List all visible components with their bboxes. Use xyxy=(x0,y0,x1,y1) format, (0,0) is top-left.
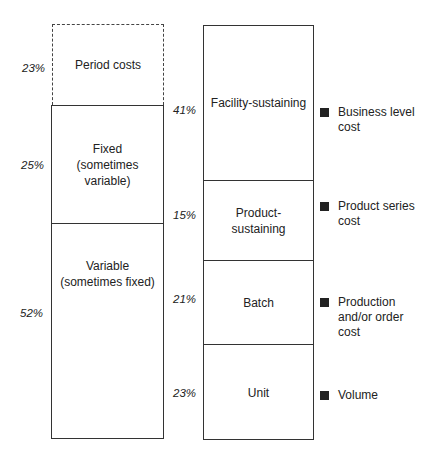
legend-product-series: Product series cost xyxy=(320,199,415,229)
legend-text: Production xyxy=(338,295,403,310)
fixed-pct: 25% xyxy=(21,159,44,171)
fixed-label-1: Fixed xyxy=(93,141,122,157)
fixed-label-2: (sometimes xyxy=(76,157,138,173)
legend-text: and/or order xyxy=(338,310,403,325)
batch-pct: 21% xyxy=(173,293,196,305)
facility-label: Facility-sustaining xyxy=(211,95,306,111)
legend-text: cost xyxy=(338,325,403,340)
bullet-square-icon xyxy=(320,391,329,400)
batch-label: Batch xyxy=(243,295,274,311)
fixed-segment: Fixed (sometimes variable) xyxy=(52,106,163,223)
variable-segment: Variable (sometimes fixed) xyxy=(52,223,163,324)
product-sustaining-segment: Product- sustaining xyxy=(204,180,313,261)
unit-segment: Unit xyxy=(204,344,313,441)
facility-sustaining-segment: Facility-sustaining xyxy=(204,26,313,180)
bullet-square-icon xyxy=(320,202,329,211)
unit-pct: 23% xyxy=(173,387,196,399)
variable-label-2: (sometimes fixed) xyxy=(60,274,155,290)
legend-production-order: Production and/or order cost xyxy=(320,295,403,340)
legend-volume: Volume xyxy=(320,388,378,403)
period-pct: 23% xyxy=(22,62,45,74)
legend-text: Business level xyxy=(338,105,415,120)
bullet-square-icon xyxy=(320,108,329,117)
legend-text: cost xyxy=(338,120,415,135)
period-costs-box: Period costs xyxy=(52,24,164,105)
legend-text: Volume xyxy=(338,388,378,403)
left-cost-box: Fixed (sometimes variable) Variable (som… xyxy=(51,105,164,439)
fixed-label-3: variable) xyxy=(84,173,130,189)
product-label-1: Product- xyxy=(236,205,281,221)
bullet-square-icon xyxy=(320,298,329,307)
legend-text: Product series xyxy=(338,199,415,214)
variable-pct: 52% xyxy=(20,307,43,319)
right-cost-box: Facility-sustaining Product- sustaining … xyxy=(203,25,314,440)
period-costs-label: Period costs xyxy=(75,58,141,72)
facility-pct: 41% xyxy=(173,104,196,116)
variable-label-1: Variable xyxy=(86,258,129,274)
legend-business-level: Business level cost xyxy=(320,105,415,135)
product-pct: 15% xyxy=(173,209,196,221)
unit-label: Unit xyxy=(248,385,269,401)
legend-text: cost xyxy=(338,214,415,229)
batch-segment: Batch xyxy=(204,260,313,345)
product-label-2: sustaining xyxy=(231,221,285,237)
